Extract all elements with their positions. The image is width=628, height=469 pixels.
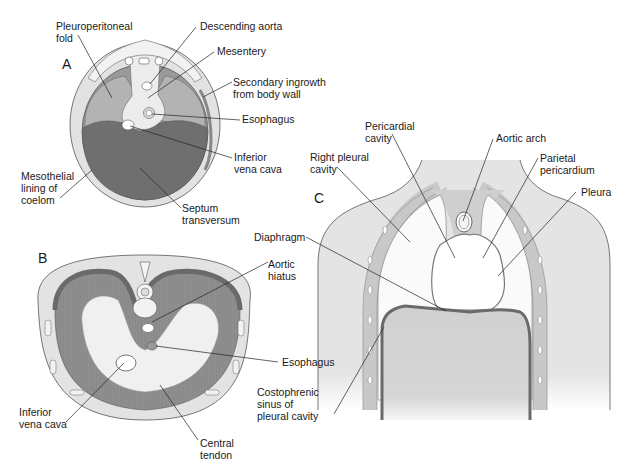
label-aortic-arch: Aortic arch [496,132,546,144]
label-esophagus-b: Esophagus [282,356,335,368]
label-descending-aorta: Descending aorta [200,20,282,32]
panel-letter-a: A [62,56,71,72]
label-pleura: Pleura [581,186,611,198]
panel-letter-c: C [314,190,324,206]
label-inferior-vena-cava-b: Inferior vena cava [19,406,67,430]
label-parietal-pericardium: Parietal pericardium [540,152,595,176]
label-diaphragm: Diaphragm [254,231,305,243]
label-esophagus-a: Esophagus [242,113,295,125]
label-septum-transversum: Septum transversum [182,202,240,226]
panel-a-drawing [70,40,220,207]
diagram-figure: A B C Pleuroperitoneal fold Descending a… [0,0,628,469]
label-mesentery: Mesentery [217,45,266,57]
label-right-pleural-cavity: Right pleural cavity [310,151,369,175]
label-central-tendon: Central tendon [200,437,234,461]
panel-b-drawing [38,255,251,420]
label-secondary-ingrowth: Secondary ingrowth from body wall [233,76,326,100]
panel-c-drawing [318,160,610,420]
label-inferior-vena-cava-a: Inferior vena cava [234,151,282,175]
label-aortic-hiatus: Aortic hiatus [268,258,296,282]
label-mesothelial-lining: Mesothelial lining of coelom [21,170,74,206]
label-costophrenic-sinus: Costophrenic sinus of pleural cavity [257,386,319,422]
label-pericardial-cavity: Pericardial cavity [365,120,415,144]
panel-letter-b: B [38,250,47,266]
label-pleuroperitoneal-fold: Pleuroperitoneal fold [56,20,132,44]
